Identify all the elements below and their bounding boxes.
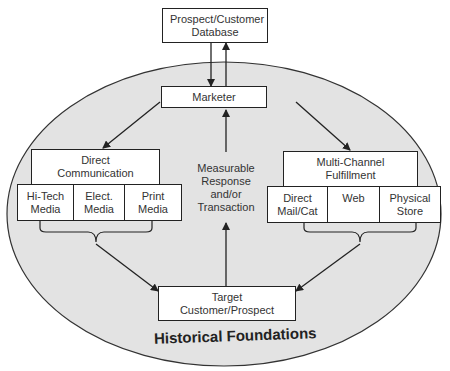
channel-direct-mail-cell: Direct Mail/Cat (267, 186, 328, 223)
hi-tech-media-label: Hi-Tech Media (26, 190, 66, 216)
elect-media-label: Elect. Media (81, 190, 117, 216)
media-print-cell: Print Media (124, 184, 182, 221)
target-label: Target Customer/Prospect (172, 291, 282, 317)
print-media-label: Print Media (135, 190, 171, 216)
measurable-response-text: Measurable Response and/or Transaction (197, 162, 254, 213)
multichannel-label: Multi-Channel Fulfillment (311, 156, 391, 182)
physical-store-label: Physical Store (385, 192, 435, 218)
media-electronic-cell: Elect. Media (73, 184, 125, 221)
direct-communication-label: Direct Communication (51, 154, 141, 180)
multichannel-fulfillment-box: Multi-Channel Fulfillment (283, 151, 418, 187)
direct-mail-label: Direct Mail/Cat (275, 192, 321, 218)
media-hi-tech-cell: Hi-Tech Media (17, 184, 74, 221)
database-label: Prospect/Customer Database (170, 13, 260, 39)
prospect-customer-database-box: Prospect/Customer Database (162, 8, 268, 43)
measurable-response-label: Measurable Response and/or Transaction (188, 162, 264, 214)
channel-web-cell: Web (327, 186, 380, 223)
marketer-box: Marketer (161, 86, 267, 108)
marketer-label: Marketer (192, 91, 235, 104)
target-customer-box: Target Customer/Prospect (158, 286, 296, 321)
direct-communication-box: Direct Communication (31, 149, 160, 185)
web-label: Web (342, 192, 364, 205)
channel-physical-store-cell: Physical Store (379, 186, 441, 223)
